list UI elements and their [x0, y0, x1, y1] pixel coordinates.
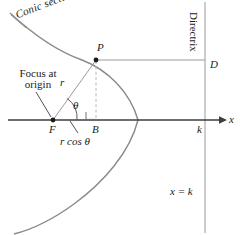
k-tick-label: k: [197, 124, 202, 135]
radius-r-label: r: [60, 77, 64, 88]
theta-angle-label: θ: [73, 100, 78, 111]
directrix-label: Directrix: [188, 12, 199, 52]
right-angle-marker: [86, 112, 95, 119]
focus-leader-line: [36, 92, 51, 117]
conic-section-figure: Conic section Focus atorigin P F B D x k…: [0, 0, 240, 235]
focus-point-marker: [51, 118, 56, 123]
point-b-label: B: [92, 124, 99, 135]
point-f-label: F: [49, 124, 56, 135]
x-axis-arrowhead: [219, 116, 227, 124]
point-d-label: D: [210, 59, 218, 70]
point-p-marker: [94, 58, 99, 63]
r-cos-theta-label: r cos θ: [60, 136, 90, 147]
figure-canvas: [0, 0, 240, 235]
directrix-equation-label: x = k: [170, 186, 193, 197]
conic-section-curve: [10, 13, 138, 234]
point-p-label: P: [97, 42, 104, 53]
x-axis-label: x: [229, 114, 234, 125]
rcostheta-leader-line: [70, 121, 78, 133]
